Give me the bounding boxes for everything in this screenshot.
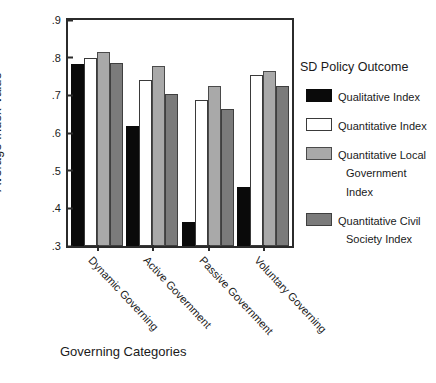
bar bbox=[139, 80, 152, 246]
legend-item: Quantitative Index bbox=[306, 117, 434, 135]
y-axis-tick: .5 bbox=[52, 165, 68, 176]
y-tick-mark bbox=[67, 245, 73, 247]
legend-swatch bbox=[306, 89, 332, 102]
y-axis-tick: .3 bbox=[52, 241, 68, 252]
bar bbox=[126, 126, 139, 246]
legend-label: Quantitative Index bbox=[338, 117, 427, 135]
legend-item: Quantitative LocalGovernment Index bbox=[306, 146, 434, 200]
bar bbox=[84, 58, 97, 246]
legend-label: Quantitative CivilSociety Index bbox=[338, 212, 421, 248]
legend-item: Qualitative Index bbox=[306, 88, 434, 106]
bar bbox=[165, 94, 178, 246]
y-axis-tick: .9 bbox=[52, 15, 68, 26]
x-tick-mark bbox=[208, 245, 210, 251]
bar bbox=[276, 86, 289, 246]
y-tick-mark bbox=[67, 207, 73, 209]
legend-items: Qualitative IndexQuantitative IndexQuant… bbox=[306, 88, 434, 248]
x-tick-mark bbox=[152, 245, 154, 251]
bar bbox=[182, 222, 195, 246]
y-axis-tick: .8 bbox=[52, 52, 68, 63]
y-tick-mark bbox=[67, 170, 73, 172]
x-tick-mark bbox=[97, 245, 99, 251]
bars-container bbox=[68, 20, 292, 246]
legend-label-line2: Society Index bbox=[346, 230, 421, 248]
bar bbox=[263, 71, 276, 246]
bar-chart: .9.8.7.6.5.4.3 Average Index Value Gover… bbox=[0, 0, 436, 383]
bar bbox=[221, 109, 234, 246]
bar bbox=[71, 64, 84, 246]
legend: SD Policy Outcome Qualitative IndexQuant… bbox=[306, 60, 434, 259]
x-tick-mark bbox=[263, 245, 265, 251]
bar bbox=[97, 52, 110, 246]
y-tick-mark bbox=[67, 57, 73, 59]
legend-item: Quantitative CivilSociety Index bbox=[306, 212, 434, 248]
plot-area: .9.8.7.6.5.4.3 bbox=[66, 18, 294, 248]
x-axis-title: Governing Categories bbox=[60, 344, 186, 359]
y-tick-mark bbox=[67, 94, 73, 96]
bar bbox=[208, 86, 221, 246]
legend-swatch bbox=[306, 118, 332, 131]
legend-swatch bbox=[306, 213, 332, 226]
y-axis-tick: .7 bbox=[52, 90, 68, 101]
y-tick-mark bbox=[67, 132, 73, 134]
bar bbox=[250, 75, 263, 246]
y-tick-mark bbox=[67, 19, 73, 21]
y-axis-title: Average Index Value bbox=[0, 72, 4, 192]
bar bbox=[195, 100, 208, 246]
bar bbox=[152, 66, 165, 246]
bar bbox=[237, 187, 250, 247]
bar bbox=[110, 63, 123, 246]
legend-title: SD Policy Outcome bbox=[300, 60, 434, 74]
legend-label-line2: Government Index bbox=[346, 164, 434, 200]
y-axis-tick: .6 bbox=[52, 128, 68, 139]
legend-label: Qualitative Index bbox=[338, 88, 420, 106]
legend-swatch bbox=[306, 147, 332, 160]
legend-label: Quantitative LocalGovernment Index bbox=[338, 146, 434, 200]
y-axis-tick: .4 bbox=[52, 203, 68, 214]
